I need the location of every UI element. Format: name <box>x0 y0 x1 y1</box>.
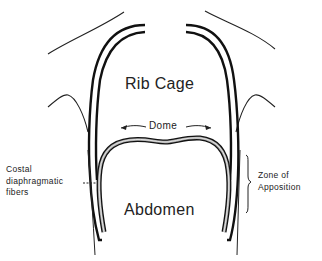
costal-fibers-line-3: fibers <box>6 187 63 199</box>
rib-cage-label: Rib Cage <box>125 76 194 92</box>
abdomen-label: Abdomen <box>124 202 195 218</box>
right-neck-line <box>205 11 275 49</box>
zone-of-apposition-label: Zone of Apposition <box>258 170 301 193</box>
zone-label-line-2: Apposition <box>258 182 301 194</box>
zone-label-line-1: Zone of <box>258 170 301 182</box>
right-armpit-curve <box>236 95 275 132</box>
zone-brace-icon <box>246 155 251 213</box>
costal-fibers-line-2: diaphragmatic <box>6 176 63 188</box>
left-body-line <box>88 150 95 255</box>
costal-fibers-label: Costal diaphragmatic fibers <box>6 164 63 199</box>
costal-fibers-line-1: Costal <box>6 164 63 176</box>
left-armpit-curve <box>48 95 88 132</box>
dome-label: Dome <box>149 121 177 131</box>
